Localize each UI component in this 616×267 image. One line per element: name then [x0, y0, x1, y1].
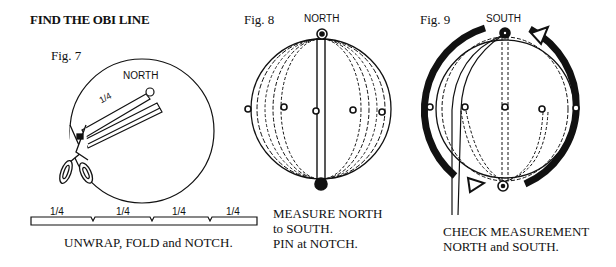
rotation-arrows [424, 27, 576, 192]
fig8-sphere [251, 38, 391, 181]
diagram-drawings [0, 0, 616, 267]
notched-strip [31, 217, 257, 225]
folded-strip [82, 88, 162, 148]
